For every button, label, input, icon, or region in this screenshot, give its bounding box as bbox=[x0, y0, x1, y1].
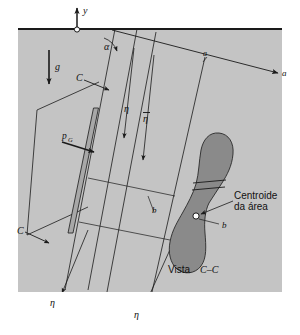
label-a-axis-arrow: a bbox=[282, 68, 287, 78]
label-section-c-bottom: C bbox=[17, 225, 24, 236]
figure-container: y g α a a C C p G η η η η b b Centroide … bbox=[0, 0, 300, 335]
label-view-section: C–C bbox=[200, 264, 219, 275]
label-b-right: b bbox=[222, 220, 227, 230]
label-alpha-angle: α bbox=[104, 41, 110, 52]
label-b-left: b bbox=[152, 205, 157, 215]
label-gravity: g bbox=[55, 61, 60, 72]
label-a-axis-tick: a bbox=[203, 49, 207, 58]
label-view-prefix: Vista bbox=[168, 264, 190, 275]
label-eta-bar-symbol: η bbox=[143, 113, 148, 124]
centroid-marker bbox=[193, 213, 199, 219]
label-pressure-pg-symbol: p bbox=[61, 131, 67, 141]
label-section-c-top: C bbox=[76, 72, 83, 83]
label-eta-bottom-left: η bbox=[50, 297, 55, 308]
origin-marker bbox=[74, 27, 79, 32]
label-y-axis: y bbox=[82, 5, 88, 16]
label-centroid-line2: da área bbox=[234, 201, 268, 212]
label-pressure-pg-subscript: G bbox=[68, 136, 73, 143]
label-eta-bottom-right: η bbox=[134, 309, 139, 320]
label-eta-left: η bbox=[124, 103, 129, 114]
hydrostatic-inclined-plane-diagram: y g α a a C C p G η η η η b b Centroide … bbox=[0, 0, 300, 335]
label-centroid-line1: Centroide bbox=[234, 190, 278, 201]
